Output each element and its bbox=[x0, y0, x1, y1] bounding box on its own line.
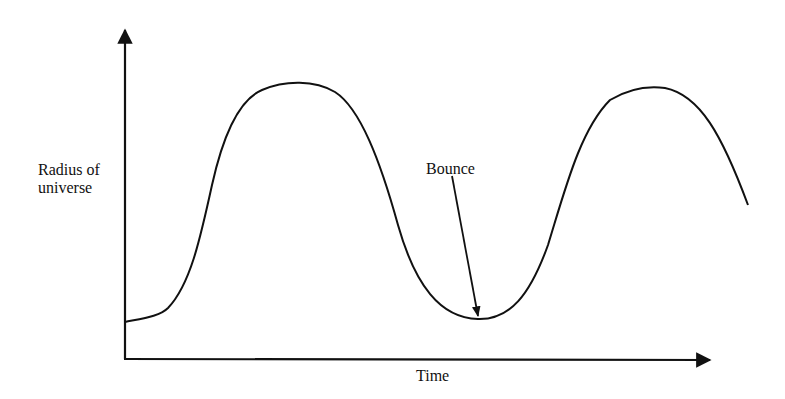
bounce-annotation: Bounce bbox=[426, 160, 475, 178]
y-axis-label-line2: universe bbox=[38, 179, 100, 197]
x-axis bbox=[124, 359, 710, 360]
y-axis-label: Radius of universe bbox=[38, 161, 100, 197]
diagram-canvas bbox=[0, 0, 785, 399]
x-axis-label: Time bbox=[416, 367, 449, 385]
radius-curve bbox=[125, 83, 748, 322]
bounce-arrow bbox=[452, 176, 478, 316]
y-axis-label-line1: Radius of bbox=[38, 161, 100, 179]
